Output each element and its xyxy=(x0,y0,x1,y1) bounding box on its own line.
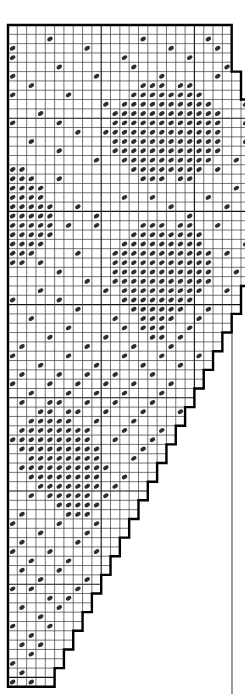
grid-row-bg xyxy=(8,556,111,565)
grid-row-bg xyxy=(8,221,245,230)
grid-row-bg xyxy=(8,668,55,677)
knitting-chart xyxy=(0,0,245,694)
grid-row-bg xyxy=(8,519,129,528)
chart-canvas xyxy=(0,0,245,694)
grid-row-bg xyxy=(8,81,241,90)
grid-row-bg xyxy=(8,342,222,351)
grid-row-bg xyxy=(8,230,245,239)
grid-row-bg xyxy=(8,211,245,220)
grid-row-bg xyxy=(8,407,185,416)
grid-row-bg xyxy=(8,183,245,192)
grid-row-bg xyxy=(8,174,245,183)
grid-row-bg xyxy=(8,333,222,342)
grid-row-bg xyxy=(8,165,245,174)
grid-row-bg xyxy=(8,370,204,379)
grid-row-bg xyxy=(8,528,129,537)
grid-row-bg xyxy=(8,72,241,81)
grid-row-bg xyxy=(8,90,241,99)
grid-row-bg xyxy=(8,202,245,211)
grid-row-bg xyxy=(8,631,73,640)
